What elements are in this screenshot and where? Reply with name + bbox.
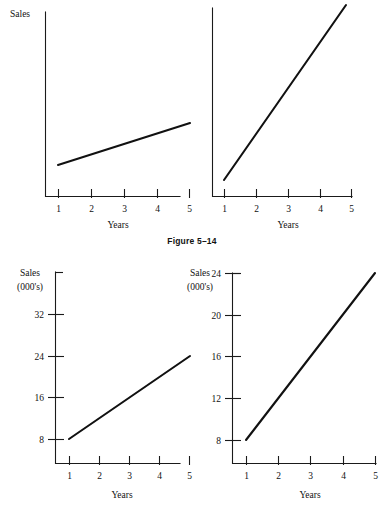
y-tick-label-8-bottom-left: 8 (39, 435, 44, 445)
data-line-top-right (224, 5, 346, 180)
x-tick-label-3-bottom-right: 3 (308, 471, 313, 481)
x-tick-label-1-top-left: 1 (56, 204, 61, 214)
x-axis-label-top-left: Years (107, 220, 129, 230)
figure-page: Sales 1 2 3 4 5 Years 1 (0, 0, 384, 510)
chart-panel-top-right: 1 2 3 4 5 Years (192, 0, 384, 230)
x-axis-label-bottom-left: Years (111, 490, 133, 500)
data-line-top-left (58, 123, 190, 165)
y-axis-sublabel-bottom-left: (000's) (17, 282, 43, 293)
figure-caption: Figure 5–14 (0, 236, 384, 246)
y-axis-sublabel-bottom-right: (000's) (187, 282, 213, 293)
x-tick-label-3-bottom-left: 3 (127, 471, 132, 481)
data-line-bottom-left (69, 356, 190, 439)
y-axis-label-bottom-right: Sales (190, 268, 210, 278)
y-tick-label-16-bottom-left: 16 (35, 393, 45, 403)
y-tick-label-24-bottom-left: 24 (35, 352, 45, 362)
x-tick-label-2-top-left: 2 (89, 204, 94, 214)
x-tick-label-4-bottom-right: 4 (341, 471, 346, 481)
y-axis-label-bottom-left: Sales (20, 268, 40, 278)
x-tick-label-4-top-left: 4 (155, 204, 160, 214)
x-axis-label-bottom-right: Years (299, 490, 321, 500)
chart-svg-bottom-right: Sales (000's) 24 20 16 12 8 1 2 3 4 5 Ye… (192, 258, 384, 510)
x-tick-label-3-top-right: 3 (286, 204, 291, 214)
chart-svg-bottom-left: Sales (000's) 32 24 16 8 1 2 3 4 5 Years (0, 258, 192, 510)
y-tick-label-24-bottom-right: 24 (212, 269, 222, 279)
chart-panel-bottom-left: Sales (000's) 32 24 16 8 1 2 3 4 5 Years (0, 258, 192, 510)
y-axis-label-top-left: Sales (10, 9, 30, 19)
x-axis-label-top-right: Years (277, 220, 299, 230)
y-tick-label-12-bottom-right: 12 (212, 394, 222, 404)
y-tick-label-16-bottom-right: 16 (212, 352, 222, 362)
chart-svg-top-right: 1 2 3 4 5 Years (192, 0, 384, 230)
chart-svg-top-left: Sales 1 2 3 4 5 Years (0, 0, 192, 230)
x-tick-label-1-bottom-right: 1 (244, 471, 249, 481)
x-tick-label-1-bottom-left: 1 (67, 471, 72, 481)
x-tick-label-2-top-right: 2 (254, 204, 259, 214)
x-tick-label-2-bottom-right: 2 (276, 471, 281, 481)
x-tick-label-5-top-right: 5 (349, 204, 354, 214)
data-line-bottom-right (246, 273, 375, 440)
y-tick-label-20-bottom-right: 20 (212, 311, 222, 321)
x-tick-label-5-bottom-right: 5 (373, 471, 378, 481)
x-tick-label-3-top-left: 3 (122, 204, 127, 214)
x-tick-label-4-top-right: 4 (318, 204, 323, 214)
x-tick-label-1-top-right: 1 (222, 204, 227, 214)
y-tick-label-32-bottom-left: 32 (35, 310, 45, 320)
y-tick-label-8-bottom-right: 8 (216, 436, 221, 446)
chart-panel-bottom-right: Sales (000's) 24 20 16 12 8 1 2 3 4 5 Ye… (192, 258, 384, 510)
chart-panel-top-left: Sales 1 2 3 4 5 Years (0, 0, 192, 230)
x-tick-label-2-bottom-left: 2 (97, 471, 102, 481)
x-tick-label-4-bottom-left: 4 (157, 471, 162, 481)
